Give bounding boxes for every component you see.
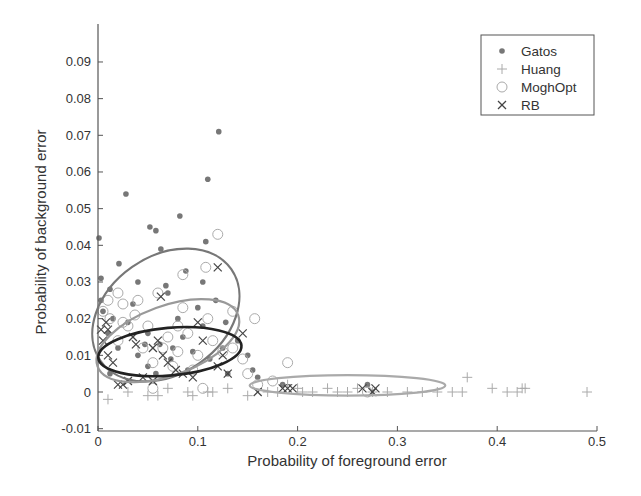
data-point xyxy=(163,283,169,289)
y-tick-label: 0.02 xyxy=(66,311,91,326)
data-point xyxy=(153,391,163,401)
ellipse-rb xyxy=(96,322,243,382)
data-point xyxy=(201,262,211,272)
data-point xyxy=(402,387,412,397)
series-gatos xyxy=(96,129,370,388)
data-point xyxy=(96,235,102,241)
data-point xyxy=(193,350,203,360)
dot-marker-icon xyxy=(499,48,505,54)
points-layer xyxy=(96,129,592,404)
y-tick-label: 0.09 xyxy=(66,54,91,69)
x-tick-label: 0.5 xyxy=(588,434,606,449)
data-point xyxy=(123,191,129,197)
data-point xyxy=(133,295,143,305)
data-point xyxy=(118,299,128,309)
ellipse-gatos xyxy=(67,221,265,409)
data-point xyxy=(203,314,213,324)
y-tick-label: 0.05 xyxy=(66,201,91,216)
data-point xyxy=(163,383,173,393)
data-point xyxy=(173,347,183,357)
legend-label: RB xyxy=(521,98,540,113)
y-tick-label: 0.03 xyxy=(66,274,91,289)
series-moghopt xyxy=(98,229,372,397)
data-point xyxy=(98,276,104,282)
data-point xyxy=(149,344,157,352)
y-tick-label: 0.04 xyxy=(66,238,91,253)
data-point xyxy=(177,213,183,219)
x-tick-label: 0.2 xyxy=(289,434,307,449)
x-tick-label: 0.1 xyxy=(189,434,207,449)
data-point xyxy=(143,391,153,401)
data-point xyxy=(447,387,457,397)
data-point xyxy=(135,279,141,285)
data-point xyxy=(250,314,260,324)
x-tick-label: 0 xyxy=(94,434,101,449)
x-tick-label: 0.3 xyxy=(388,434,406,449)
legend-label: Gatos xyxy=(521,44,557,59)
data-point xyxy=(223,320,229,326)
data-point xyxy=(147,224,153,230)
data-point xyxy=(123,387,133,397)
y-ticks: -0.0100.010.020.030.040.050.060.070.080.… xyxy=(61,54,103,436)
data-point xyxy=(462,372,472,382)
data-point xyxy=(183,328,193,338)
data-point xyxy=(487,383,497,393)
data-point xyxy=(135,353,141,359)
legend-label: MoghOpt xyxy=(521,80,577,95)
data-point xyxy=(132,340,140,348)
data-point xyxy=(208,387,218,397)
data-point xyxy=(113,288,123,298)
y-axis-label: Probability of background error xyxy=(32,129,49,334)
series-huang xyxy=(103,372,592,404)
data-point xyxy=(239,329,247,337)
data-point xyxy=(205,177,211,183)
data-point xyxy=(457,387,467,397)
data-point xyxy=(323,383,333,393)
data-point xyxy=(163,332,173,342)
y-tick-label: 0.01 xyxy=(66,348,91,363)
data-point xyxy=(116,261,122,267)
y-tick-label: 0.08 xyxy=(66,91,91,106)
data-point xyxy=(228,343,238,353)
data-point xyxy=(243,391,253,401)
data-point xyxy=(153,228,159,234)
data-point xyxy=(194,318,202,326)
data-point xyxy=(103,394,113,404)
data-point xyxy=(102,318,110,326)
data-point xyxy=(148,358,158,368)
data-point xyxy=(214,263,222,271)
data-point xyxy=(283,358,293,368)
data-point xyxy=(178,303,188,313)
data-point xyxy=(104,351,112,359)
data-point xyxy=(195,305,201,311)
data-point xyxy=(157,293,165,301)
data-point xyxy=(199,337,207,345)
data-point xyxy=(109,359,117,367)
legend-label: Huang xyxy=(521,62,561,77)
data-point xyxy=(238,354,248,364)
data-point xyxy=(502,387,512,397)
ellipses-layer xyxy=(67,221,445,409)
x-axis-label: Probability of foreground error xyxy=(247,452,446,469)
data-point xyxy=(352,383,362,393)
data-point xyxy=(203,239,209,245)
y-tick-label: 0.06 xyxy=(66,164,91,179)
data-point xyxy=(223,383,233,393)
data-point xyxy=(208,336,218,346)
y-tick-label: 0 xyxy=(84,385,91,400)
data-point xyxy=(200,279,206,285)
legend: GatosHuangMoghOptRB xyxy=(481,35,594,115)
data-point xyxy=(165,290,171,296)
scatter-chart: -0.0100.010.020.030.040.050.060.070.080.… xyxy=(0,0,641,496)
x-tick-label: 0.4 xyxy=(488,434,506,449)
y-tick-label: -0.01 xyxy=(61,421,91,436)
data-point xyxy=(100,309,106,315)
data-point xyxy=(582,387,592,397)
data-point xyxy=(243,369,253,379)
ellipse-moghopt xyxy=(86,282,251,399)
data-point xyxy=(178,270,188,280)
data-point xyxy=(213,229,223,239)
data-point xyxy=(216,129,222,135)
y-tick-label: 0.07 xyxy=(66,128,91,143)
x-ticks: 00.10.20.30.40.5 xyxy=(94,426,606,449)
